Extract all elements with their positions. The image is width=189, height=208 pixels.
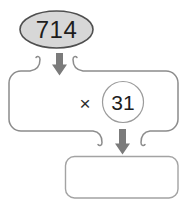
down-arrow-top-icon bbox=[52, 53, 67, 76]
multiplier-value: 31 bbox=[111, 92, 134, 113]
down-arrow-bottom-icon bbox=[115, 129, 130, 155]
diagram-canvas bbox=[0, 0, 189, 208]
multiply-operator: × bbox=[79, 94, 90, 113]
multiplication-flow-diagram: 714 × 31 bbox=[0, 0, 189, 208]
input-value: 714 bbox=[36, 18, 78, 42]
result-box[interactable] bbox=[66, 157, 179, 199]
